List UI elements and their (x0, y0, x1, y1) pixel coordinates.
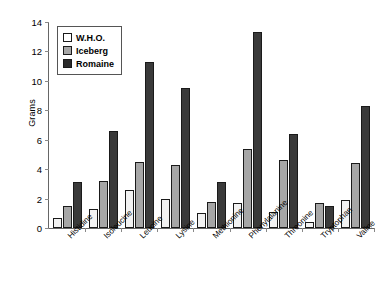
bar (207, 202, 216, 228)
bar-group (193, 22, 229, 228)
y-axis-tick-label: 2 (37, 193, 42, 204)
bar (53, 218, 62, 228)
legend-item: Romaine (63, 57, 114, 70)
bar (145, 62, 154, 228)
legend-label: Iceberg (76, 46, 108, 56)
y-axis-tick-label: 10 (31, 75, 42, 86)
legend-swatch-icon (63, 59, 72, 68)
x-axis-tick (193, 228, 194, 232)
legend-swatch-icon (63, 46, 72, 55)
y-axis-tick-label: 14 (31, 17, 42, 28)
bar-group (157, 22, 193, 228)
bar (181, 88, 190, 228)
bar (63, 206, 72, 228)
x-axis-tick (157, 228, 158, 232)
y-axis-title: Grams (27, 83, 37, 143)
y-axis-tick-label: 6 (37, 134, 42, 145)
bar (289, 134, 298, 228)
bar (171, 165, 180, 228)
x-axis-tick (85, 228, 86, 232)
bar (109, 131, 118, 228)
bar-group (338, 22, 374, 228)
bar (351, 163, 360, 228)
x-axis-tick (338, 228, 339, 232)
y-axis-tick-label: 8 (37, 105, 42, 116)
x-axis-tick (266, 228, 267, 232)
x-axis-tick (230, 228, 231, 232)
bar (161, 199, 170, 228)
bar (243, 149, 252, 228)
bar-group (302, 22, 338, 228)
x-axis-tick (374, 228, 375, 232)
bar-chart: Grams 02468101214 W.H.O.IcebergRomaine H… (0, 0, 386, 283)
y-axis-tick-label: 12 (31, 46, 42, 57)
legend-swatch-icon (63, 33, 72, 42)
chart-legend: W.H.O.IcebergRomaine (57, 26, 122, 75)
bar (253, 32, 262, 228)
y-axis-tick-label: 0 (37, 223, 42, 234)
bar-group (230, 22, 266, 228)
bar (279, 160, 288, 228)
legend-label: Romaine (76, 59, 114, 69)
bar (135, 162, 144, 228)
legend-item: W.H.O. (63, 31, 114, 44)
bar (361, 106, 370, 228)
x-axis-tick (121, 228, 122, 232)
legend-label: W.H.O. (76, 33, 105, 43)
y-axis-tick (45, 228, 49, 229)
x-axis-tick (302, 228, 303, 232)
bar (197, 213, 206, 228)
bar (315, 203, 324, 228)
bar (99, 181, 108, 228)
legend-item: Iceberg (63, 44, 114, 57)
bar-group (121, 22, 157, 228)
bar-group (266, 22, 302, 228)
y-axis-tick-label: 4 (37, 164, 42, 175)
